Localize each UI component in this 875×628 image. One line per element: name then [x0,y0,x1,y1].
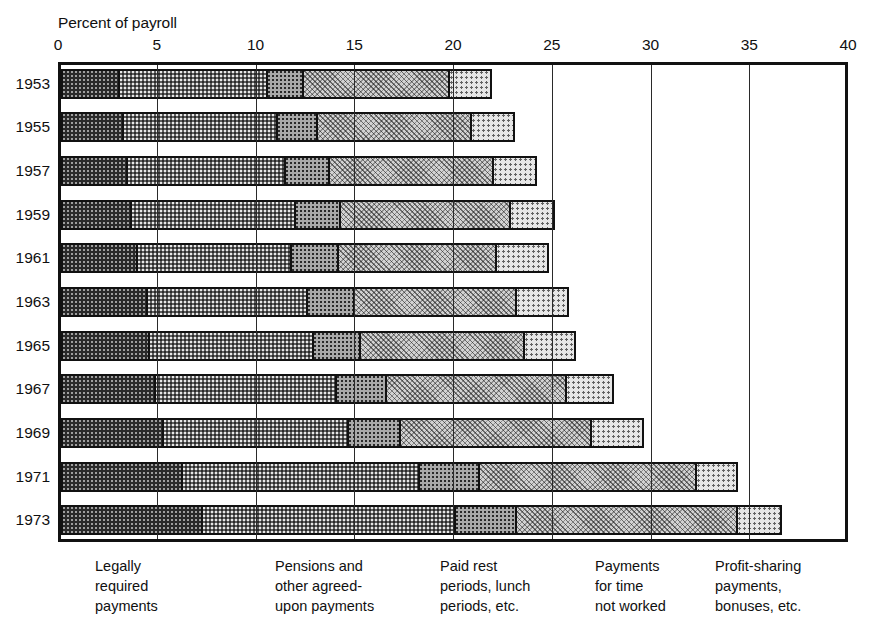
y-category-label: 1953 [16,75,50,93]
y-category-label: 1963 [16,293,50,311]
y-category-label: 1971 [16,468,50,486]
x-axis-title: Percent of payroll [58,14,177,32]
y-category-label: 1965 [16,337,50,355]
bar-segment [470,112,515,142]
bar-row [61,374,614,404]
bar-segment [478,462,697,492]
y-category-label: 1959 [16,206,50,224]
bar-segment [61,418,164,448]
bar-segment [385,374,567,404]
gridline [354,65,355,539]
bar-row [61,200,555,230]
bar-segment [126,156,286,186]
y-category-label: 1973 [16,511,50,529]
bar-segment [181,462,420,492]
bar-row [61,462,738,492]
bar-segment [146,287,308,317]
bar-segment [61,112,124,142]
legend-item: Legally required payments [95,556,158,616]
y-category-label: 1967 [16,380,50,398]
bar-segment [61,462,183,492]
bar-segment [695,462,738,492]
x-tick-label: 40 [839,36,856,54]
bar-segment [339,200,511,230]
bar-segment [565,374,614,404]
y-category-label: 1955 [16,118,50,136]
bar-segment [290,243,339,273]
chart-legend: Legally required paymentsPensions and ot… [0,556,875,628]
bar-segment [61,287,148,317]
bar-row [61,112,515,142]
bar-segment [736,505,781,535]
bar-segment [306,287,355,317]
y-axis-category-labels: 1953195519571959196119631965196719691971… [0,62,56,542]
bar-segment [148,331,314,361]
bar-segment [328,156,494,186]
x-tick-label: 25 [543,36,560,54]
gridline [453,65,454,539]
bar-segment [61,243,138,273]
bar-segment [61,331,150,361]
bar-segment [201,505,456,535]
x-tick-label: 5 [152,36,161,54]
bar-segment [61,69,120,99]
legend-item: Payments for time not worked [595,556,666,616]
chart-container: Percent of payroll 0510152025303540 1953… [0,0,875,628]
x-tick-label: 0 [54,36,63,54]
bar-row [61,287,569,317]
bar-segment [590,418,643,448]
bar-segment [266,69,304,99]
bar-segment [495,243,548,273]
bar-row [61,243,549,273]
bar-segment [399,418,593,448]
bar-segment [492,156,537,186]
bar-segment [359,331,525,361]
bar-segment [154,374,338,404]
bar-segment [294,200,341,230]
x-tick-label: 35 [741,36,758,54]
bar-row [61,418,644,448]
bar-row [61,156,537,186]
bar-segment [118,69,268,99]
bar-segment [337,243,497,273]
bar-segment [509,200,554,230]
bar-segment [418,462,479,492]
y-category-label: 1957 [16,162,50,180]
y-category-label: 1969 [16,424,50,442]
gridline [157,65,158,539]
x-tick-label: 30 [642,36,659,54]
legend-item: Pensions and other agreed- upon payments [275,556,374,616]
bar-segment [335,374,386,404]
bar-segment [515,505,738,535]
x-tick-label: 10 [247,36,264,54]
bar-segment [523,331,576,361]
bar-segment [515,287,568,317]
legend-item: Paid rest periods, lunch periods, etc. [440,556,530,616]
gridline [256,65,257,539]
bar-segment [276,112,318,142]
bar-segment [316,112,472,142]
x-tick-label: 20 [444,36,461,54]
bar-segment [353,287,517,317]
bar-segment [448,69,491,99]
bar-segment [284,156,329,186]
bar-segment [61,505,203,535]
bar-segment [61,374,156,404]
gridline [552,65,553,539]
bar-segment [61,200,132,230]
x-tick-label: 15 [346,36,363,54]
gridline [651,65,652,539]
gridline [749,65,750,539]
bar-segment [130,200,296,230]
bar-row [61,331,576,361]
bar-segment [347,418,400,448]
plot-area [58,62,848,542]
bar-row [61,69,492,99]
x-axis-tick-labels: 0510152025303540 [0,36,875,56]
y-category-label: 1961 [16,249,50,267]
bar-row [61,505,782,535]
legend-item: Profit-sharing payments, bonuses, etc. [715,556,801,616]
bar-segment [454,505,517,535]
bar-segment [136,243,292,273]
bar-segment [302,69,450,99]
